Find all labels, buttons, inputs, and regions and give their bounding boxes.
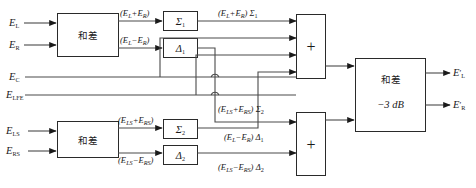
label-sum-diff-output: 和差 (381, 74, 401, 85)
label-sum-diff-top: 和差 (78, 30, 98, 41)
label-output-er-prime: E′R (452, 99, 466, 111)
diagram-canvas: EL ER EC ELFE ELS ERS 和差 和差 Σ1 Δ1 Σ2 Δ2 … (0, 0, 476, 188)
label-output-gain: −3 dB (377, 99, 404, 110)
label-input-els: ELS (5, 125, 20, 137)
label-input-ec: EC (8, 71, 20, 83)
signal-flow-diagram: EL ER EC ELFE ELS ERS 和差 和差 Σ1 Δ1 Σ2 Δ2 … (0, 0, 476, 188)
label-adder-bottom: + (306, 136, 315, 153)
block-sum-diff-output (356, 59, 426, 132)
label-input-er: ER (8, 39, 20, 51)
label-sum-diff-bottom: 和差 (78, 135, 98, 146)
label-input-ers: ERS (5, 145, 21, 157)
label-input-elfe: ELFE (5, 89, 24, 101)
signal-label-sum-lsrs: (ELS+ERS) (118, 115, 154, 126)
signal-label-diff-lr-delta1: (EL−ER) Δ1 (224, 132, 264, 143)
label-output-el-prime: E′L (452, 67, 465, 79)
label-adder-top: + (306, 38, 315, 55)
signal-label-diff-lsrs: (ELS−ERS) (118, 155, 154, 166)
signal-label-sum-lsrs-sigma2: (ELS+ERS) Σ2 (218, 104, 264, 115)
signal-label-diff-lsrs-delta2: (ELS−ERS) Δ2 (218, 162, 264, 173)
label-input-el: EL (8, 17, 19, 29)
signal-label-sum-lr-sigma1: (EL+ER) Σ1 (218, 8, 258, 19)
signal-label-sum-lr: (EL+ER) (120, 8, 149, 19)
signal-label-diff-lr: (EL−ER) (120, 35, 149, 46)
wire-elfe-to-adder-top (196, 55, 296, 95)
wire-sigma2-to-adder-top (198, 72, 297, 128)
